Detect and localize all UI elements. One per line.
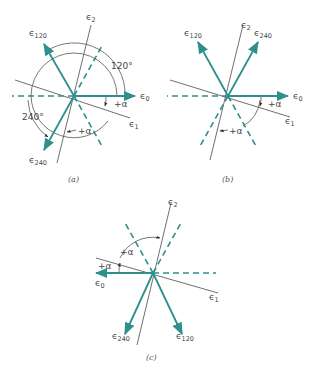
label-e120: ϵ120 bbox=[176, 331, 194, 343]
label-alpha-2: +α bbox=[120, 247, 134, 257]
label-e120: ϵ120 bbox=[184, 28, 202, 40]
dashed-line-downright bbox=[228, 96, 257, 148]
dashed-line-upright bbox=[74, 44, 103, 96]
caption-a: (a) bbox=[68, 175, 79, 184]
label-angle-120: 120° bbox=[111, 61, 133, 71]
dashed-line-downright bbox=[74, 96, 103, 148]
panel-b: ϵ0 ϵ1 ϵ2 ϵ120 ϵ240 +α +α (b) bbox=[167, 20, 303, 184]
phasor-e120 bbox=[153, 273, 182, 334]
e2-axis-line bbox=[57, 25, 91, 163]
label-e240: ϵ240 bbox=[112, 331, 130, 343]
alpha-arrow-2 bbox=[67, 130, 76, 132]
label-e240: ϵ240 bbox=[29, 155, 47, 167]
label-e2: ϵ2 bbox=[86, 12, 96, 24]
phasor-e120 bbox=[44, 44, 74, 96]
label-e2: ϵ2 bbox=[241, 20, 251, 32]
alpha-arrow-2 bbox=[220, 130, 228, 131]
label-angle-240: 240° bbox=[22, 112, 44, 122]
phasor-e120 bbox=[198, 42, 228, 96]
phasor-e240 bbox=[125, 273, 153, 334]
label-e0: ϵ0 bbox=[293, 91, 303, 103]
caption-c: (c) bbox=[146, 353, 157, 362]
label-alpha-2: +α bbox=[78, 126, 92, 136]
panel-a: ϵ0 ϵ1 ϵ2 ϵ120 ϵ240 120° 240° +α +α (a) bbox=[12, 12, 150, 184]
caption-b: (b) bbox=[222, 175, 233, 184]
label-alpha-1: +α bbox=[114, 99, 128, 109]
phasor-diagram: ϵ0 ϵ1 ϵ2 ϵ120 ϵ240 120° 240° +α +α (a) ϵ… bbox=[0, 0, 312, 373]
label-e120: ϵ120 bbox=[29, 28, 47, 40]
label-e0: ϵ0 bbox=[140, 91, 150, 103]
label-e1: ϵ1 bbox=[285, 116, 295, 128]
label-e2: ϵ2 bbox=[168, 197, 178, 209]
label-e1: ϵ1 bbox=[209, 292, 219, 304]
e1-axis-line bbox=[96, 258, 218, 293]
panel-c: ϵ0 ϵ1 ϵ2 ϵ240 ϵ120 +α +α (c) bbox=[95, 197, 219, 362]
label-alpha-1: +α bbox=[268, 99, 282, 109]
alpha-arc-1 bbox=[105, 96, 106, 106]
alpha-arc-2 bbox=[243, 100, 260, 126]
label-e0: ϵ0 bbox=[95, 278, 105, 290]
dashed-line-upright bbox=[153, 221, 182, 273]
phasor-e240 bbox=[44, 96, 74, 150]
label-e240: ϵ240 bbox=[254, 28, 272, 40]
label-alpha-1: +α bbox=[98, 261, 112, 271]
label-alpha-2: +α bbox=[229, 126, 243, 136]
label-e1: ϵ1 bbox=[129, 119, 139, 131]
